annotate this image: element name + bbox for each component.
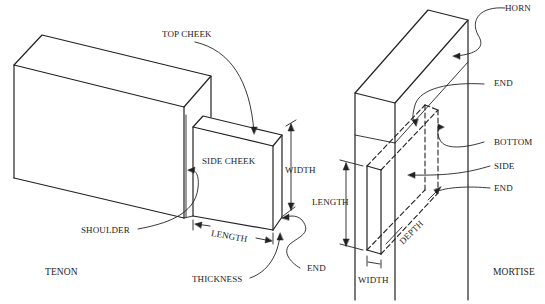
label-shoulder: SHOULDER [81,226,130,235]
diagram-drawing [0,0,545,304]
label-mortise-end-top: END [494,79,513,88]
tenon-projection [184,115,282,230]
label-tenon-end: END [307,264,326,273]
label-side: SIDE [494,162,514,171]
mortise-stile [355,10,468,300]
label-side-cheek: SIDE CHEEK [202,157,255,166]
label-mortise-end-bottom: END [494,184,513,193]
mortise-tenon-diagram: TOP CHEEK SIDE CHEEK WIDTH SHOULDER LENG… [0,0,545,304]
label-thickness: THICKNESS [192,275,242,284]
label-horn: HORN [505,4,531,13]
label-tenon-width: WIDTH [285,166,316,175]
caption-tenon: TENON [45,268,78,278]
label-bottom: BOTTOM [494,138,532,147]
caption-mortise: MORTISE [493,268,535,278]
mortise-opening [367,105,438,254]
tenon-rail-block [14,35,211,218]
label-mortise-width: WIDTH [358,276,389,285]
label-mortise-length: LENGTH [312,198,349,207]
label-top-cheek: TOP CHEEK [162,30,212,39]
